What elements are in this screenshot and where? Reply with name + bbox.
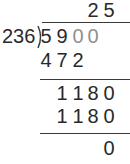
product-digit: 8 [86, 106, 100, 126]
quotient-digit: 5 [102, 0, 116, 20]
product-digit: 7 [55, 50, 69, 70]
remainder-digit: 8 [86, 83, 100, 103]
remainder-digit: 0 [102, 138, 116, 158]
divisor: 236 [2, 26, 35, 46]
dividend-digit: 0 [86, 26, 100, 46]
remainder-digit: 1 [55, 83, 69, 103]
product-digit: 1 [71, 106, 85, 126]
product-digit: 2 [71, 50, 85, 70]
dividend-digit: 5 [39, 26, 53, 46]
dividend-digit: 0 [71, 26, 85, 46]
product-digit: 4 [39, 50, 53, 70]
product-digit: 1 [55, 106, 69, 126]
remainder-digit: 1 [71, 83, 85, 103]
quotient-digit: 2 [86, 0, 100, 20]
division-bar [42, 22, 130, 23]
dividend-digit: 9 [55, 26, 69, 46]
subtraction-line [40, 133, 130, 134]
product-digit: 0 [102, 106, 116, 126]
subtraction-line [40, 79, 130, 80]
remainder-digit: 0 [102, 83, 116, 103]
